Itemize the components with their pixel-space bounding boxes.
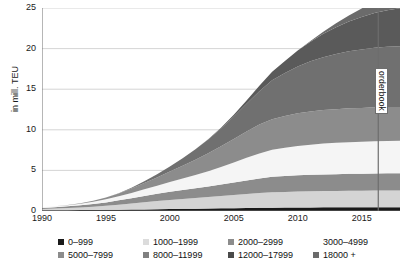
legend-item[interactable]: 12000–17999 <box>228 249 293 261</box>
legend-item[interactable]: 18000 + <box>313 249 356 261</box>
plot-svg <box>42 8 400 211</box>
x-tick-label: 2000 <box>150 214 190 223</box>
plot-area <box>42 8 400 211</box>
legend-swatch-icon <box>143 252 149 258</box>
legend-label: 8000–11999 <box>153 251 202 260</box>
legend-swatch-icon <box>143 239 149 245</box>
legend-swatch-icon <box>228 252 234 258</box>
legend-label: 1000–1999 <box>153 238 198 247</box>
legend-row: 5000–79998000–1199912000–1799918000 + <box>0 249 407 261</box>
x-axis-ticks: 199019952000200520102015 <box>0 214 407 228</box>
legend-item[interactable]: 8000–11999 <box>143 249 202 261</box>
y-tick-label: 20 <box>14 44 36 53</box>
y-axis-ticks: 0510152025 <box>8 0 36 220</box>
legend-label: 3000–4999 <box>323 238 368 247</box>
chart-legend: 0–9991000–19992000–29993000–49995000–799… <box>0 236 407 266</box>
x-tick-label: 1990 <box>22 214 62 223</box>
y-tick-label: 10 <box>14 125 36 134</box>
x-tick-label: 2005 <box>214 214 254 223</box>
x-tick-label: 2015 <box>342 214 382 223</box>
legend-item[interactable]: 1000–1999 <box>143 236 198 248</box>
legend-item[interactable]: 2000–2999 <box>228 236 283 248</box>
legend-label: 12000–17999 <box>238 251 293 260</box>
legend-label: 5000–7999 <box>68 251 113 260</box>
stacked-area-chart: in mill. TEU 0510152025 orderbook 199019… <box>0 0 407 271</box>
legend-item[interactable]: 3000–4999 <box>313 236 368 248</box>
legend-swatch-icon <box>58 252 64 258</box>
legend-item[interactable]: 0–999 <box>58 236 93 248</box>
legend-swatch-icon <box>313 239 319 245</box>
legend-label: 0–999 <box>68 238 93 247</box>
legend-swatch-icon <box>313 252 319 258</box>
legend-swatch-icon <box>58 239 64 245</box>
y-tick-label: 5 <box>14 165 36 174</box>
legend-item[interactable]: 5000–7999 <box>58 249 113 261</box>
x-tick-label: 1995 <box>86 214 126 223</box>
orderbook-annotation-label: orderbook <box>375 68 388 114</box>
y-tick-label: 25 <box>14 3 36 12</box>
y-tick-label: 15 <box>14 84 36 93</box>
legend-row: 0–9991000–19992000–29993000–4999 <box>0 236 407 248</box>
legend-swatch-icon <box>228 239 234 245</box>
legend-label: 18000 + <box>323 251 356 260</box>
legend-label: 2000–2999 <box>238 238 283 247</box>
x-tick-label: 2010 <box>278 214 318 223</box>
